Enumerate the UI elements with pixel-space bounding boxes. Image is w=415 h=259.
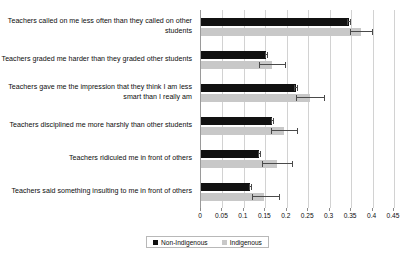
error-bar-cap-high bbox=[285, 62, 286, 68]
x-axis-tick bbox=[329, 208, 330, 211]
error-bar-line bbox=[350, 31, 372, 32]
error-bar bbox=[258, 150, 261, 158]
category-label: Teachers disciplined me more harshly tha… bbox=[0, 121, 192, 131]
error-bar-cap-high bbox=[297, 85, 298, 91]
x-axis-tick-label: 0.35 bbox=[344, 212, 357, 219]
bar-indigenous bbox=[201, 28, 361, 36]
error-bar-cap-low bbox=[259, 62, 260, 68]
legend-label: Indigenous bbox=[230, 239, 262, 246]
error-bar-cap-high bbox=[279, 194, 280, 200]
error-bar bbox=[271, 127, 298, 135]
error-bar-cap-high bbox=[292, 161, 293, 167]
legend-swatch-icon bbox=[222, 240, 227, 245]
gridline bbox=[373, 10, 374, 208]
error-bar-cap-high bbox=[273, 118, 274, 124]
gridline bbox=[394, 10, 395, 208]
error-bar bbox=[347, 18, 350, 26]
error-bar-cap-high bbox=[324, 95, 325, 101]
gridline bbox=[330, 10, 331, 208]
x-axis-tick bbox=[200, 208, 201, 211]
x-axis-tick bbox=[264, 208, 265, 211]
error-bar-cap-low bbox=[296, 95, 297, 101]
error-bar-cap-high bbox=[260, 151, 261, 157]
gridline bbox=[287, 10, 288, 208]
error-bar-cap-low bbox=[265, 52, 266, 58]
x-axis-tick-label: 0.25 bbox=[301, 212, 314, 219]
bar-non-indigenous bbox=[201, 183, 250, 191]
error-bar-cap-low bbox=[271, 118, 272, 124]
x-axis-tick bbox=[393, 208, 394, 211]
x-axis-tick-label: 0.4 bbox=[367, 212, 376, 219]
error-bar-line bbox=[259, 64, 286, 65]
x-axis-tick bbox=[307, 208, 308, 211]
error-bar-line bbox=[271, 130, 298, 131]
error-bar-cap-low bbox=[350, 29, 351, 35]
category-label: Teachers called on me less often than th… bbox=[0, 17, 192, 36]
error-bar-cap-low bbox=[347, 19, 348, 25]
x-axis-tick bbox=[243, 208, 244, 211]
gridline bbox=[351, 10, 352, 208]
error-bar-cap-low bbox=[258, 151, 259, 157]
x-axis-tick-label: 0.3 bbox=[324, 212, 333, 219]
gridline bbox=[308, 10, 309, 208]
error-bar bbox=[262, 160, 293, 168]
error-bar bbox=[350, 28, 372, 36]
x-axis-tick-label: 0.45 bbox=[387, 212, 400, 219]
plot-area bbox=[200, 10, 394, 208]
category-label: Teachers ridiculed me in front of others bbox=[0, 154, 192, 164]
bar-non-indigenous bbox=[201, 18, 349, 26]
category-axis-labels: Teachers called on me less often than th… bbox=[0, 10, 196, 208]
x-axis-tick-label: 0.05 bbox=[215, 212, 228, 219]
error-bar-cap-high bbox=[297, 128, 298, 134]
x-axis-tick bbox=[350, 208, 351, 211]
error-bar-cap-high bbox=[350, 19, 351, 25]
error-bar-cap-low bbox=[252, 194, 253, 200]
x-axis-tick-label: 0.15 bbox=[258, 212, 271, 219]
error-bar-cap-high bbox=[372, 29, 373, 35]
bar-non-indigenous bbox=[201, 84, 296, 92]
error-bar bbox=[249, 183, 252, 191]
error-bar-cap-high bbox=[267, 52, 268, 58]
error-bar-cap-low bbox=[294, 85, 295, 91]
gridline bbox=[244, 10, 245, 208]
x-axis-tick bbox=[286, 208, 287, 211]
bar-non-indigenous bbox=[201, 51, 266, 59]
category-label: Teachers graded me harder than they grad… bbox=[0, 55, 192, 65]
error-bar-cap-low bbox=[262, 161, 263, 167]
x-axis-tick-label: 0 bbox=[198, 212, 202, 219]
gridline bbox=[265, 10, 266, 208]
error-bar-line bbox=[252, 196, 281, 197]
gridline bbox=[222, 10, 223, 208]
bar-non-indigenous bbox=[201, 150, 259, 158]
legend: Non-IndigenousIndigenous bbox=[0, 236, 415, 248]
error-bar bbox=[294, 84, 298, 92]
x-axis-tick-label: 0.1 bbox=[238, 212, 247, 219]
x-axis-tick-label: 0.2 bbox=[281, 212, 290, 219]
error-bar-cap-low bbox=[271, 128, 272, 134]
legend-swatch-icon bbox=[153, 240, 158, 245]
error-bar-cap-high bbox=[251, 184, 252, 190]
x-axis-tick bbox=[221, 208, 222, 211]
x-axis: 00.050.10.150.20.250.30.350.40.45 bbox=[200, 208, 393, 226]
category-label: Teachers said something insulting to me … bbox=[0, 187, 192, 197]
legend-entry: Indigenous bbox=[222, 239, 262, 246]
error-bar-cap-low bbox=[249, 184, 250, 190]
error-bar-line bbox=[296, 97, 325, 98]
bar-non-indigenous bbox=[201, 117, 272, 125]
error-bar bbox=[252, 193, 281, 201]
error-bar bbox=[259, 61, 286, 69]
error-bar bbox=[271, 117, 274, 125]
error-bar bbox=[265, 51, 268, 59]
bar-indigenous bbox=[201, 94, 310, 102]
bar-chart: Teachers called on me less often than th… bbox=[0, 0, 415, 259]
legend-entry: Non-Indigenous bbox=[153, 239, 208, 246]
legend-label: Non-Indigenous bbox=[161, 239, 208, 246]
error-bar bbox=[296, 94, 325, 102]
error-bar-line bbox=[262, 163, 293, 164]
legend-box: Non-IndigenousIndigenous bbox=[146, 236, 269, 248]
x-axis-tick bbox=[372, 208, 373, 211]
category-label: Teachers gave me the impression that the… bbox=[0, 83, 192, 102]
